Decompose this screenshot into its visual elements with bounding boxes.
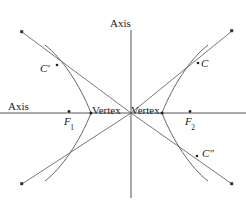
point-marker-c-prime xyxy=(56,64,59,67)
focus-label-f2-subscript: 2 xyxy=(191,123,195,132)
asymptote-lower-left xyxy=(22,113,131,184)
axis-label-top: Axis xyxy=(110,18,131,29)
branch-label-c: C xyxy=(201,58,208,69)
vertex-label-right: Vertex xyxy=(131,105,160,116)
curve-point-markers xyxy=(56,62,200,158)
asymptote-lower-right xyxy=(131,113,232,184)
endpoint-marker-upper-right xyxy=(230,29,233,32)
asymptote-endpoint-markers xyxy=(20,29,233,185)
focus-label-f2: F2 xyxy=(185,116,195,130)
hyperbola-canvas xyxy=(0,0,246,211)
branch-label-c-double-prime: C″ xyxy=(202,148,214,159)
hyperbola-figure: Axis Axis Vertex Vertex F1 F2 C′ C C″ xyxy=(0,0,246,211)
vertex-marker-right xyxy=(161,112,164,115)
endpoint-marker-lower-left xyxy=(20,182,23,185)
asymptote-upper-right xyxy=(131,31,232,113)
asymptote-upper-left xyxy=(22,32,131,113)
focus-label-f1: F1 xyxy=(64,116,74,130)
axis-label-left: Axis xyxy=(8,101,29,112)
point-marker-c xyxy=(197,62,200,65)
branch-label-c-prime: C′ xyxy=(40,63,50,74)
endpoint-marker-upper-left xyxy=(20,30,23,33)
vertex-label-left: Vertex xyxy=(92,105,121,116)
focus-label-f1-subscript: 1 xyxy=(70,123,74,132)
endpoint-marker-lower-right xyxy=(230,182,233,185)
point-marker-c-dprime xyxy=(196,155,199,158)
focus-marker-f2 xyxy=(189,110,192,113)
focus-marker-f1 xyxy=(68,110,71,113)
asymptote-group xyxy=(22,31,232,184)
